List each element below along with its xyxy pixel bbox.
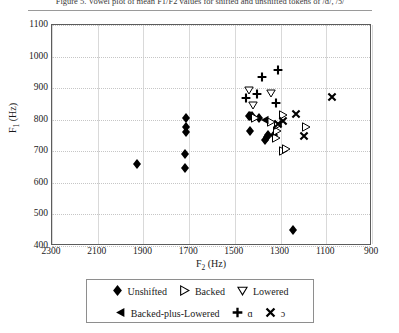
legend-marker-open-right-triangle-icon bbox=[179, 285, 192, 298]
caption-divider bbox=[28, 10, 372, 11]
chart-legend: UnshiftedBackedLowered Backed-plus-Lower… bbox=[86, 279, 314, 323]
grid-line-horizontal bbox=[52, 57, 370, 58]
figure-caption-text: Figure 5. Vowel plot of mean F1/F2 value… bbox=[28, 0, 372, 6]
data-point-plus bbox=[241, 93, 251, 103]
legend-marker-x-cross-icon bbox=[265, 307, 278, 320]
legend-item: Lowered bbox=[231, 285, 295, 298]
data-point-x-cross bbox=[299, 131, 309, 141]
y-tick-label: 1000 bbox=[2, 51, 48, 61]
x-tick-label: 2100 bbox=[87, 246, 106, 256]
y-axis-title: F1 (Hz) bbox=[7, 88, 21, 148]
legend-marker-plus-icon bbox=[232, 307, 245, 320]
grid-line-horizontal bbox=[52, 183, 370, 184]
data-point-filled-diamond bbox=[288, 225, 298, 235]
grid-line-horizontal bbox=[52, 25, 370, 26]
y-tick-label: 600 bbox=[2, 177, 48, 187]
legend-marker-filled-left-triangle-icon bbox=[115, 307, 128, 320]
data-point-plus bbox=[252, 89, 262, 99]
legend-row-1: UnshiftedBackedLowered bbox=[87, 280, 313, 302]
grid-line-vertical bbox=[98, 25, 99, 244]
legend-item-label: Backed-plus-Lowered bbox=[131, 308, 220, 319]
data-point-plus bbox=[257, 72, 267, 82]
x-tick-label: 2300 bbox=[42, 246, 61, 256]
legend-row-2: Backed-plus-Loweredɑɔ bbox=[87, 302, 313, 324]
grid-line-horizontal bbox=[52, 120, 370, 121]
grid-line-vertical bbox=[235, 25, 236, 244]
data-point-plus bbox=[271, 98, 281, 108]
data-point-open-down-triangle bbox=[266, 88, 276, 98]
legend-item-label: Backed bbox=[195, 286, 225, 297]
grid-line-vertical bbox=[326, 25, 327, 244]
data-point-filled-left-triangle bbox=[260, 115, 270, 125]
legend-item-label: Unshifted bbox=[128, 286, 167, 297]
data-point-filled-diamond bbox=[180, 149, 190, 159]
grid-line-horizontal bbox=[52, 151, 370, 152]
legend-item-label: ɔ bbox=[281, 308, 285, 319]
data-point-filled-diamond bbox=[181, 122, 191, 132]
y-tick-label: 500 bbox=[2, 208, 48, 218]
legend-item: ɑ bbox=[226, 307, 259, 320]
legend-item-label: ɑ bbox=[248, 308, 253, 319]
x-tick-label: 1500 bbox=[224, 246, 243, 256]
legend-item: Unshifted bbox=[106, 285, 173, 298]
x-tick-label: 1700 bbox=[179, 246, 198, 256]
x-tick-label: 1300 bbox=[270, 246, 289, 256]
legend-item: ɔ bbox=[259, 307, 291, 320]
data-point-filled-diamond bbox=[181, 113, 191, 123]
grid-line-vertical bbox=[372, 25, 373, 244]
x-tick-label: 1100 bbox=[316, 246, 335, 256]
data-point-plus bbox=[273, 65, 283, 75]
data-point-x-cross bbox=[327, 92, 337, 102]
legend-marker-filled-diamond-icon bbox=[112, 285, 125, 298]
legend-item: Backed-plus-Lowered bbox=[109, 307, 226, 320]
data-point-filled-diamond bbox=[132, 159, 142, 169]
data-point-x-cross bbox=[273, 119, 283, 129]
data-point-x-cross bbox=[291, 109, 301, 119]
x-tick-label: 1900 bbox=[133, 246, 152, 256]
x-tick-label: 900 bbox=[364, 246, 378, 256]
legend-item: Backed bbox=[173, 285, 231, 298]
figure-root: Figure 5. Vowel plot of mean F1/F2 value… bbox=[0, 0, 399, 333]
legend-marker-open-down-triangle-icon bbox=[237, 285, 250, 298]
plot-area bbox=[51, 24, 371, 245]
data-point-open-right-triangle bbox=[281, 144, 291, 154]
y-tick-label: 1100 bbox=[2, 19, 48, 29]
data-point-filled-diamond bbox=[245, 126, 255, 136]
x-axis-title: F2 (Hz) bbox=[51, 258, 371, 272]
grid-line-vertical bbox=[52, 25, 53, 244]
grid-line-horizontal bbox=[52, 214, 370, 215]
data-point-open-right-triangle bbox=[250, 113, 260, 123]
grid-line-horizontal bbox=[52, 88, 370, 89]
data-point-filled-diamond bbox=[180, 163, 190, 173]
legend-item-label: Lowered bbox=[253, 286, 289, 297]
grid-line-vertical bbox=[143, 25, 144, 244]
